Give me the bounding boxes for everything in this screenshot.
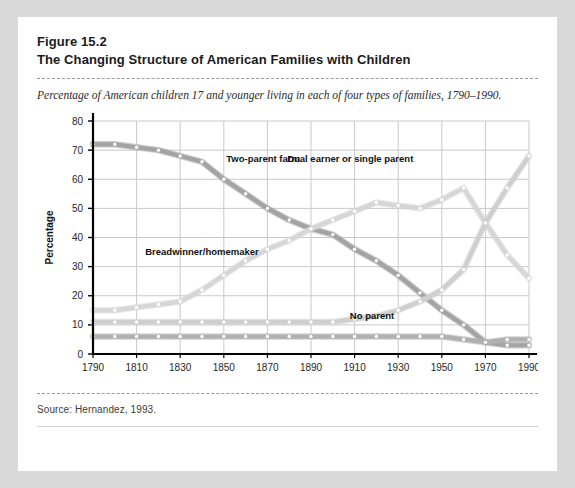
data-point-marker xyxy=(244,192,247,195)
data-point-marker xyxy=(331,233,334,236)
data-point-marker xyxy=(179,320,182,323)
data-point-marker xyxy=(462,323,465,326)
x-tick-label: 1830 xyxy=(169,362,192,373)
y-tick-label: 80 xyxy=(72,116,84,127)
data-point-marker xyxy=(397,335,400,338)
data-point-marker xyxy=(462,268,465,271)
data-point-marker xyxy=(135,320,138,323)
data-point-marker xyxy=(440,198,443,201)
data-point-marker xyxy=(200,335,203,338)
data-point-marker xyxy=(506,344,509,347)
data-point-marker xyxy=(200,288,203,291)
x-tick-label: 1930 xyxy=(387,362,410,373)
data-point-marker xyxy=(288,320,291,323)
divider-bottom xyxy=(37,393,538,394)
figure-caption: Percentage of American children 17 and y… xyxy=(37,88,538,102)
data-point-marker xyxy=(375,259,378,262)
data-point-marker xyxy=(179,335,182,338)
y-axis-ticks: 01020304050607080 xyxy=(72,116,93,360)
data-point-marker xyxy=(222,178,225,181)
x-tick-label: 1950 xyxy=(431,362,454,373)
figure-title: The Changing Structure of American Famil… xyxy=(37,51,538,69)
data-point-marker xyxy=(135,306,138,309)
data-point-marker xyxy=(331,218,334,221)
data-point-marker xyxy=(113,335,116,338)
data-point-marker xyxy=(288,239,291,242)
data-point-marker xyxy=(353,335,356,338)
divider-top xyxy=(37,78,538,79)
y-tick-label: 40 xyxy=(72,232,84,243)
data-point-marker xyxy=(222,335,225,338)
y-tick-label: 0 xyxy=(77,349,83,360)
data-point-marker xyxy=(244,335,247,338)
data-point-marker xyxy=(244,259,247,262)
data-point-marker xyxy=(397,274,400,277)
source-note: Source: Hernandez, 1993. xyxy=(37,404,538,415)
data-point-marker xyxy=(200,160,203,163)
y-tick-label: 10 xyxy=(72,319,84,330)
data-point-marker xyxy=(200,320,203,323)
x-tick-label: 1970 xyxy=(474,362,497,373)
data-point-marker xyxy=(375,335,378,338)
data-point-marker xyxy=(135,335,138,338)
y-tick-label: 20 xyxy=(72,290,84,301)
data-point-marker xyxy=(353,247,356,250)
data-point-marker xyxy=(157,335,160,338)
x-tick-label: 1850 xyxy=(213,362,236,373)
y-axis-title: Percentage xyxy=(44,210,55,264)
y-tick-label: 70 xyxy=(72,145,84,156)
data-point-marker xyxy=(157,303,160,306)
data-point-marker xyxy=(331,320,334,323)
data-point-marker xyxy=(440,309,443,312)
series-label: Breadwinner/homemaker xyxy=(145,246,259,257)
data-point-marker xyxy=(135,146,138,149)
data-point-marker xyxy=(462,338,465,341)
data-point-marker xyxy=(397,309,400,312)
data-point-marker xyxy=(309,227,312,230)
data-point-marker xyxy=(331,335,334,338)
x-tick-label: 1890 xyxy=(300,362,323,373)
data-point-marker xyxy=(179,300,182,303)
data-point-marker xyxy=(506,186,509,189)
divider-footer xyxy=(37,426,538,427)
data-point-marker xyxy=(179,154,182,157)
data-point-marker xyxy=(506,338,509,341)
data-point-marker xyxy=(418,300,421,303)
x-tick-label: 1910 xyxy=(343,362,366,373)
data-point-marker xyxy=(157,148,160,151)
data-point-marker xyxy=(309,335,312,338)
data-point-marker xyxy=(266,335,269,338)
y-tick-label: 60 xyxy=(72,174,84,185)
data-point-marker xyxy=(309,320,312,323)
series-label: Dual earner or single parent xyxy=(287,153,414,164)
y-tick-label: 50 xyxy=(72,203,84,214)
series-label: No parent xyxy=(350,310,395,321)
y-tick-label: 30 xyxy=(72,261,84,272)
line-chart: 01020304050607080 1790181018301850187018… xyxy=(37,111,538,387)
data-point-marker xyxy=(244,320,247,323)
data-point-marker xyxy=(484,341,487,344)
data-point-marker xyxy=(527,277,530,280)
data-point-marker xyxy=(440,288,443,291)
data-point-marker xyxy=(506,253,509,256)
x-tick-label: 1790 xyxy=(82,362,105,373)
data-point-marker xyxy=(418,207,421,210)
data-point-marker xyxy=(222,274,225,277)
data-point-marker xyxy=(484,221,487,224)
x-tick-label: 1810 xyxy=(125,362,148,373)
data-point-marker xyxy=(462,186,465,189)
figure-card: Figure 15.2 The Changing Structure of Am… xyxy=(18,17,557,471)
figure-number: Figure 15.2 xyxy=(37,33,538,50)
data-point-marker xyxy=(113,320,116,323)
data-point-marker xyxy=(157,320,160,323)
data-point-marker xyxy=(113,143,116,146)
data-point-marker xyxy=(418,291,421,294)
data-point-marker xyxy=(527,344,530,347)
data-point-marker xyxy=(527,154,530,157)
data-point-marker xyxy=(288,218,291,221)
data-point-marker xyxy=(266,247,269,250)
data-point-marker xyxy=(288,335,291,338)
x-axis-ticks: 1790181018301850187018901910193019501970… xyxy=(82,354,538,373)
figure-content: Figure 15.2 The Changing Structure of Am… xyxy=(37,33,538,457)
data-point-marker xyxy=(353,210,356,213)
